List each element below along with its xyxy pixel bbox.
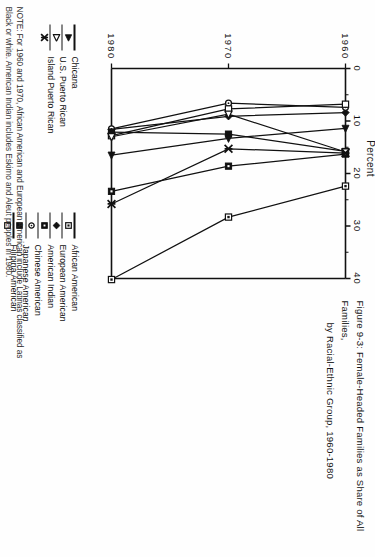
figure-title-line1: Figure 9-3: Female-Headed Families as Sh… bbox=[339, 300, 365, 531]
legend-line-sample bbox=[73, 212, 74, 238]
figure-note-line1: NOTE: For 1960 and 1970, African America… bbox=[13, 6, 24, 551]
figure-page: Figure 9-3: Female-Headed Families as Sh… bbox=[0, 0, 375, 557]
legend-marker-triangle-open-icon bbox=[58, 33, 66, 41]
legend-item-label: Island Puerto Rican bbox=[45, 56, 55, 133]
chart-plot-area: 010203040196019701980 bbox=[87, 30, 361, 286]
x-axis-label: Percent bbox=[364, 30, 375, 286]
scanned-page-stage: Figure 9-3: Female-Headed Families as Sh… bbox=[0, 0, 375, 557]
x-tick-label: 20 bbox=[351, 167, 361, 179]
figure-title-line2: by Racial-Ethnic Group, 1960-1980 bbox=[322, 322, 337, 550]
legend-item-label: African American bbox=[69, 244, 79, 311]
legend-item: African American bbox=[69, 212, 79, 311]
data-point-marker bbox=[108, 188, 114, 194]
legend-line-sample bbox=[37, 212, 38, 238]
legend-item-label: European American bbox=[57, 244, 67, 321]
legend-item: European American bbox=[57, 212, 67, 321]
x-tick-label: 0 bbox=[351, 65, 361, 71]
legend-item: American Indian bbox=[45, 212, 55, 308]
x-tick-label: 40 bbox=[351, 272, 361, 284]
data-point-marker bbox=[224, 144, 232, 152]
x-tick-label: 30 bbox=[351, 219, 361, 231]
legend-item-label: Chicana bbox=[69, 56, 79, 88]
data-point-marker bbox=[342, 101, 348, 107]
y-tick-label: 1980 bbox=[106, 33, 116, 59]
series-line bbox=[111, 186, 345, 279]
y-tick-label: 1960 bbox=[340, 33, 350, 59]
data-point-marker bbox=[225, 163, 231, 169]
legend-item: Chicana bbox=[69, 24, 79, 88]
data-point-marker bbox=[225, 100, 231, 106]
data-point-marker bbox=[108, 152, 115, 159]
legend-line-sample bbox=[73, 24, 74, 50]
legend-item-label: Chinese American bbox=[32, 244, 42, 315]
legend-line-sample bbox=[25, 212, 26, 238]
legend-marker-diamond-filled-icon bbox=[58, 221, 66, 229]
legend-item: Chinese American bbox=[32, 212, 42, 315]
figure-note: NOTE: For 1960 and 1970, African America… bbox=[2, 6, 24, 551]
legend-item: U.S. Puerto Rican bbox=[57, 24, 67, 126]
line-chart: 010203040196019701980 bbox=[87, 30, 361, 286]
data-point-marker bbox=[342, 183, 348, 189]
figure-note-line2: Black or white. American Indian includes… bbox=[2, 6, 13, 551]
legend-line-sample bbox=[61, 24, 62, 50]
legend-marker-circle-open-icon bbox=[33, 221, 41, 229]
legend-line-sample bbox=[61, 212, 62, 238]
legend-line-sample bbox=[49, 212, 50, 238]
figure-title: Figure 9-3: Female-Headed Families as Sh… bbox=[322, 300, 367, 550]
legend-marker-square-dot-filled-icon bbox=[46, 221, 54, 229]
series-line bbox=[111, 154, 345, 191]
legend-item-label: American Indian bbox=[45, 244, 55, 308]
data-point-marker bbox=[108, 276, 114, 282]
data-point-marker bbox=[225, 213, 231, 219]
legend-item-label: U.S. Puerto Rican bbox=[57, 56, 67, 126]
legend-marker-x-star-icon bbox=[46, 33, 54, 41]
legend-marker-square-dot-open-icon bbox=[70, 221, 78, 229]
y-tick-label: 1970 bbox=[223, 33, 233, 59]
legend-line-sample bbox=[49, 24, 50, 50]
x-tick-label: 10 bbox=[351, 114, 361, 126]
legend-item: Island Puerto Rican bbox=[45, 24, 55, 133]
legend-marker-triangle-filled-icon bbox=[70, 33, 78, 41]
